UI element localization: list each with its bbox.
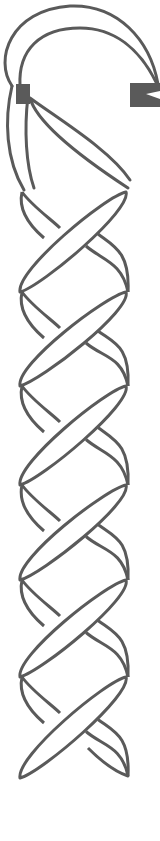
braid-strand-back-upper-inner xyxy=(21,677,44,723)
braid-strand-back-upper-outer xyxy=(22,292,60,328)
braid-strand-back-upper-inner xyxy=(21,292,44,338)
braid-strand-back-lower-inner xyxy=(98,428,128,486)
braided-lanyard-illustration xyxy=(0,0,160,841)
hook-outer-curve xyxy=(5,6,158,86)
braid-strand-back-upper-inner xyxy=(21,386,44,432)
top-strand xyxy=(30,98,130,188)
braid-strand-back-lower-inner xyxy=(98,234,128,292)
braid-strand-back-upper-outer xyxy=(22,192,60,228)
braid xyxy=(20,192,128,778)
braid-strand-back-upper-inner xyxy=(21,192,44,238)
braid-strand-back-upper-inner xyxy=(21,485,44,531)
lanyard-drawing xyxy=(0,0,160,841)
braid-strand-back-upper-outer xyxy=(22,485,60,521)
braid-strand-back-upper-inner xyxy=(21,580,44,626)
left-clamp-block xyxy=(16,84,30,104)
braid-strand-back-upper-outer xyxy=(22,580,60,616)
hook-left-leg-inner xyxy=(26,96,34,188)
braid-strand-back-upper-outer xyxy=(22,677,60,713)
braid-strand-back-upper-outer xyxy=(22,386,60,422)
